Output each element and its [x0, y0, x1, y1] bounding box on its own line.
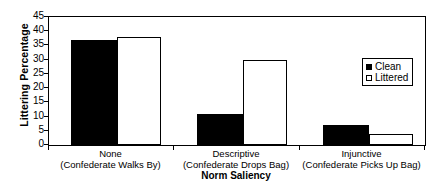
- x-category-injunctive: Injunctive (Confederate Picks Up Bag): [299, 148, 424, 170]
- y-tick-label-40: 40: [20, 25, 44, 35]
- y-tick-label-35: 35: [20, 39, 44, 49]
- x-category-none: None (Confederate Walks By): [48, 148, 173, 170]
- legend-item-clean: Clean: [366, 61, 408, 72]
- y-tick-label-5: 5: [20, 125, 44, 135]
- y-tick-label-10: 10: [20, 111, 44, 121]
- bar-littered-injunctive: [369, 134, 413, 145]
- legend-swatch-littered-icon: [366, 75, 372, 81]
- x-category-descriptive-line1: Descriptive: [173, 148, 299, 159]
- y-tick-label-0: 0: [20, 139, 44, 149]
- y-axis-tick-labels: 0 5 10 15 20 25 30 35 40 45: [20, 16, 44, 144]
- x-category-injunctive-line1: Injunctive: [299, 148, 424, 159]
- x-category-descriptive: Descriptive (Confederate Drops Bag): [173, 148, 299, 170]
- bar-clean-none: [71, 40, 117, 145]
- bar-clean-injunctive: [323, 125, 369, 145]
- bar-littered-none: [117, 37, 161, 145]
- x-axis-title: Norm Saliency: [48, 170, 424, 181]
- bar-chart-figure: Littering Percentage 0 5 10 15 20 25 30 …: [0, 0, 439, 186]
- x-tick-mark-right: [424, 145, 425, 150]
- legend: Clean Littered: [362, 58, 413, 86]
- y-tick-label-20: 20: [20, 82, 44, 92]
- legend-swatch-clean-icon: [366, 64, 372, 70]
- legend-item-littered: Littered: [366, 72, 408, 83]
- y-tick-label-30: 30: [20, 54, 44, 64]
- y-tick-label-25: 25: [20, 68, 44, 78]
- bar-clean-descriptive: [197, 114, 243, 145]
- bar-littered-descriptive: [243, 60, 287, 145]
- legend-label-littered: Littered: [375, 72, 408, 83]
- x-category-injunctive-line2: (Confederate Picks Up Bag): [299, 159, 424, 170]
- x-category-descriptive-line2: (Confederate Drops Bag): [173, 159, 299, 170]
- y-tick-label-15: 15: [20, 96, 44, 106]
- x-category-none-line2: (Confederate Walks By): [48, 159, 173, 170]
- legend-label-clean: Clean: [375, 61, 401, 72]
- y-tick-label-45: 45: [20, 11, 44, 21]
- x-category-none-line1: None: [48, 148, 173, 159]
